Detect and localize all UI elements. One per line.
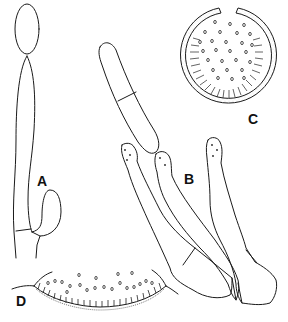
panel-a-drawing — [13, 4, 61, 258]
panel-label-c: C — [248, 112, 258, 126]
panel-label-b: B — [184, 172, 194, 186]
scientific-illustration: A B C D — [0, 0, 288, 322]
panel-label-d: D — [16, 294, 26, 308]
panel-label-a: A — [37, 174, 47, 188]
panel-c-drawing — [181, 8, 277, 103]
line-drawing — [0, 0, 288, 322]
panel-d-drawing — [12, 270, 178, 310]
